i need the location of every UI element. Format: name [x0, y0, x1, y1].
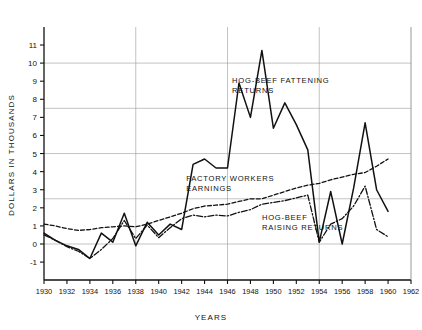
y-tick-label: 10 [28, 59, 37, 68]
x-tick-label: 1938 [128, 287, 144, 296]
y-tick-label: 7 [33, 113, 38, 122]
annotation-label-1-line2: EARNINGS [186, 184, 232, 193]
x-tick-label: 1936 [105, 287, 121, 296]
x-tick-label: 1948 [242, 287, 258, 296]
y-tick-label: 9 [33, 77, 38, 86]
x-tick-label: 1932 [59, 287, 75, 296]
y-tick-label: 5 [33, 150, 38, 159]
chart-figure: -101234567891011 19301932193419361938194… [0, 0, 422, 330]
y-tick-label: -1 [30, 258, 38, 267]
x-tick-label: 1962 [403, 287, 419, 296]
annotation-label-0: HOG-BEEF FATTENING [232, 76, 329, 85]
x-tick-label: 1934 [82, 287, 98, 296]
annotation-label-2-line2: RAISING RETURNS [262, 223, 343, 232]
x-tick-label: 1940 [150, 287, 166, 296]
x-tick-label: 1952 [288, 287, 304, 296]
x-tick-label: 1946 [219, 287, 235, 296]
x-tick-label: 1958 [357, 287, 373, 296]
x-tick-label: 1960 [380, 287, 396, 296]
x-tick-label: 1930 [36, 287, 52, 296]
x-tick-label: 1942 [173, 287, 189, 296]
y-tick-label: 2 [33, 204, 38, 213]
x-tick-label: 1956 [334, 287, 350, 296]
annotation-label-1: FACTORY WORKERS [186, 174, 274, 183]
y-tick-label: 6 [33, 131, 38, 140]
x-tick-label: 1944 [196, 287, 212, 296]
y-tick-label: 11 [29, 41, 38, 50]
annotation-label-2: HOG-BEEF [262, 213, 308, 222]
y-axis-title: DOLLARS IN THOUSANDS [7, 94, 16, 216]
annotation-label-0-line2: RETURNS [232, 86, 274, 95]
y-tick-label: 0 [33, 240, 38, 249]
y-tick-label: 3 [33, 186, 38, 195]
x-axis-title: YEARS [195, 313, 228, 322]
y-tick-label: 8 [33, 95, 38, 104]
y-tick-label: 4 [33, 168, 38, 177]
x-tick-label: 1954 [311, 287, 327, 296]
x-tick-label: 1950 [265, 287, 281, 296]
y-tick-label: 1 [33, 222, 38, 231]
